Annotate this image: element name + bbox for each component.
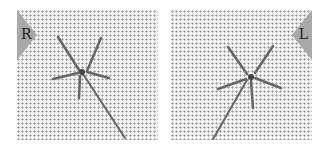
panel-right-hand-illustration: R bbox=[17, 10, 158, 140]
star-stitch-illustration bbox=[17, 10, 158, 140]
hand-label: R bbox=[21, 27, 32, 41]
star-stitch-illustration bbox=[171, 10, 312, 140]
panel-left-hand-illustration: L bbox=[171, 10, 312, 140]
hand-label: L bbox=[299, 27, 308, 41]
